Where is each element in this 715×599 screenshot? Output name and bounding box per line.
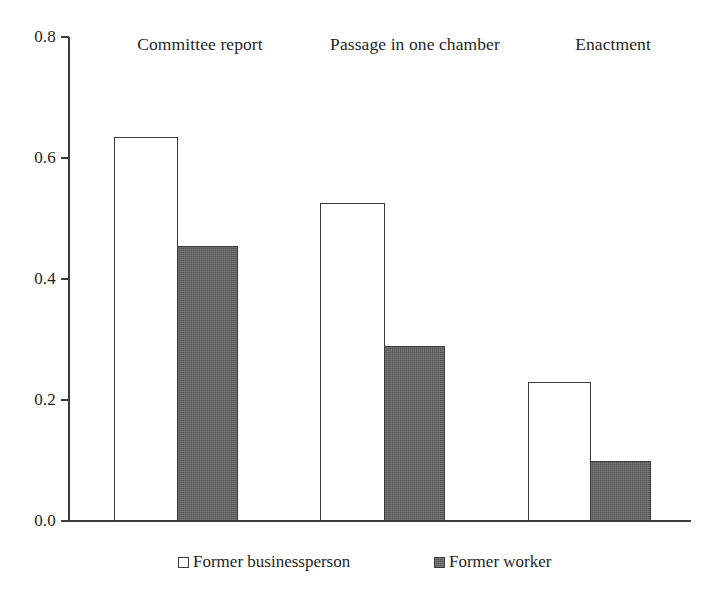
y-axis-tick-mark [61,36,69,38]
y-axis-tick-label: 0.4 [0,270,56,287]
legend-label: Former businessperson [193,552,350,571]
y-axis-tick-label-text: 0.8 [2,28,56,45]
legend-entry-1: Former businessperson [178,552,350,571]
bar [590,461,651,522]
y-axis-tick-label-text: 0.6 [2,149,56,166]
bar [320,203,385,521]
chart-legend: Former businesspersonFormer worker [0,552,715,582]
y-axis-tick-label-text: 0.0 [2,512,56,529]
y-axis-tick-label: 0.8 [0,28,56,45]
y-axis-tick-label: 0.0 [0,512,56,529]
y-axis-tick-label-text: 0.2 [2,391,56,408]
bar-chart: 0.00.20.40.60.8 Committee reportPassage … [0,0,715,599]
legend-swatch-icon [434,557,445,568]
category-label-1: Committee report [100,34,300,54]
category-label-2: Passage in one chamber [290,34,540,54]
bar [114,137,178,521]
y-axis-tick-mark [61,278,69,280]
y-axis-tick-label: 0.2 [0,391,56,408]
y-axis-tick-mark [61,520,69,522]
y-axis-tick-label-text: 0.4 [2,270,56,287]
legend-swatch-icon [178,557,189,568]
bar [384,346,445,521]
y-axis-tick-mark [61,157,69,159]
y-axis-tick-mark [61,399,69,401]
legend-label: Former worker [449,552,551,571]
bar [528,382,591,521]
y-axis-tick-label: 0.6 [0,149,56,166]
bar [177,246,238,521]
category-label-3: Enactment [533,34,693,54]
legend-entry-2: Former worker [434,552,551,571]
